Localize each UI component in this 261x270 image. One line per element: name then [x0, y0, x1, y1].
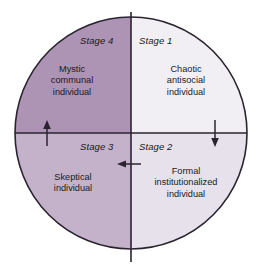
diagram-canvas	[0, 0, 261, 270]
quadrant-fill-stage-2	[131, 133, 247, 249]
quadrant-fill-stage-4	[15, 17, 131, 133]
quadrant-fill-stage-3	[15, 133, 131, 249]
quadrant-fill-stage-1	[131, 17, 247, 133]
stage-circle-diagram: Stage 4 Mystic communal individual Stage…	[0, 0, 261, 270]
